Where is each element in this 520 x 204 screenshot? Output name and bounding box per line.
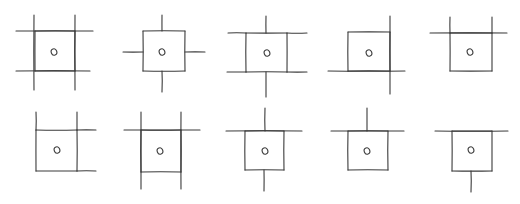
sketch-panel-10 [435, 131, 508, 192]
sketch-panel-9 [331, 108, 404, 170]
center-dot-icon [50, 48, 57, 56]
center-dot-icon [158, 48, 165, 56]
sketch-panel-8 [226, 108, 302, 191]
sketch-panel-7 [124, 112, 200, 189]
center-dot-icon [365, 49, 372, 57]
center-dot-icon [261, 147, 268, 155]
sketch-panel-2 [123, 15, 205, 92]
sketch-panel-4 [328, 16, 405, 94]
center-dot-icon [466, 48, 473, 56]
sketch-panel-1 [16, 15, 93, 90]
sketch-panel-5 [430, 17, 507, 71]
center-dot-icon [156, 147, 163, 155]
center-dot-icon [263, 49, 270, 57]
center-dot-icon [363, 147, 370, 155]
sketch-grid [0, 0, 520, 204]
diagram-canvas [0, 0, 520, 204]
sketch-panel-6 [36, 112, 96, 171]
center-dot-icon [53, 146, 60, 154]
sketch-panel-3 [227, 16, 307, 97]
center-dot-icon [467, 146, 474, 154]
